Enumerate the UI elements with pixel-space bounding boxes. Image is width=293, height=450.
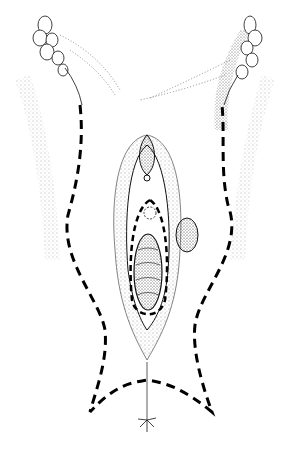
left-lymph-nodes [33, 16, 82, 105]
right-thigh-shading [230, 75, 275, 260]
central-lesion [134, 234, 162, 310]
anal-mark [138, 418, 156, 432]
clitoris [144, 175, 150, 181]
side-lesion [176, 218, 198, 252]
surgical-illustration [0, 0, 293, 450]
urethral-opening [144, 207, 156, 219]
upper-stipple-lines [60, 35, 230, 100]
left-thigh-shading [15, 75, 60, 260]
